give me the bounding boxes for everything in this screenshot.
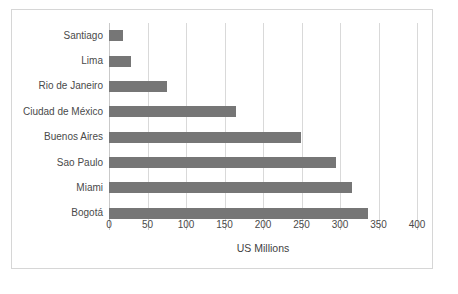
bar: [109, 132, 301, 143]
x-tick-label: 400: [409, 220, 426, 230]
gridline-400: [417, 23, 418, 226]
plot-wrapper: SantiagoLimaRio de JaneiroCiudad de Méxi…: [12, 10, 432, 268]
bar-row: Sao Paulo: [109, 150, 417, 175]
plot-area: SantiagoLimaRio de JaneiroCiudad de Méxi…: [109, 23, 417, 226]
category-label: Santiago: [64, 31, 103, 41]
x-tick-label: 100: [178, 220, 195, 230]
x-tick-label: 350: [370, 220, 387, 230]
category-label: Buenos Aires: [44, 132, 103, 142]
category-label: Miami: [76, 183, 103, 193]
x-tick-label: 0: [106, 220, 112, 230]
x-tick-label: 300: [332, 220, 349, 230]
x-tick-label: 200: [255, 220, 272, 230]
bar: [109, 106, 236, 117]
chart-container: SantiagoLimaRio de JaneiroCiudad de Méxi…: [11, 9, 433, 269]
x-tick-label: 250: [293, 220, 310, 230]
category-label: Ciudad de México: [23, 107, 103, 117]
category-label: Rio de Janeiro: [39, 81, 103, 91]
bar: [109, 81, 167, 92]
x-tick-label: 150: [216, 220, 233, 230]
bar-row: Miami: [109, 175, 417, 200]
category-label: Lima: [81, 56, 103, 66]
bar-row: Lima: [109, 48, 417, 73]
category-label: Bogotá: [71, 208, 103, 218]
bar: [109, 30, 123, 41]
bar: [109, 182, 352, 193]
bar: [109, 157, 336, 168]
bar: [109, 56, 131, 67]
bar-series: SantiagoLimaRio de JaneiroCiudad de Méxi…: [109, 23, 417, 226]
x-tick-label: 50: [142, 220, 153, 230]
bar-row: Ciudad de México: [109, 99, 417, 124]
bar: [109, 208, 368, 219]
bar-row: Santiago: [109, 23, 417, 48]
bar-row: Buenos Aires: [109, 125, 417, 150]
x-axis-title: US Millions: [109, 242, 417, 254]
category-label: Sao Paulo: [57, 158, 103, 168]
bar-row: Rio de Janeiro: [109, 74, 417, 99]
